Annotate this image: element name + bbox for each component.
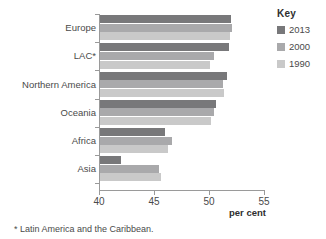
bar [100,24,232,32]
category-label: LAC* [2,51,96,61]
legend-label: 1990 [289,58,310,69]
x-axis-tick [154,191,155,195]
bar [100,100,216,108]
x-axis-tick-label: 45 [142,196,166,207]
legend-label: 2000 [289,41,310,52]
x-axis-tick [209,191,210,195]
category-label: Europe [2,23,96,33]
category-axis-labels: EuropeLAC*Northern AmericaOceaniaAfricaA… [0,0,96,239]
x-axis-tick [99,191,100,195]
bar [100,80,223,88]
legend-label: 2013 [289,24,310,35]
bar [100,52,214,60]
x-axis-title: per cent [190,207,266,218]
bar [100,15,231,23]
bar [100,32,230,40]
y-axis-tick [95,14,99,15]
bar [100,137,172,145]
legend-title: Key [277,8,326,19]
bar [100,128,165,136]
bar [100,117,211,125]
x-axis-tick [264,191,265,195]
legend: Key 201320001990 [277,8,326,75]
chart-figure: EuropeLAC*Northern AmericaOceaniaAfricaA… [0,0,326,239]
legend-swatch-icon [277,60,285,68]
bar [100,89,224,97]
bar [100,43,229,51]
bar [100,72,227,80]
y-axis-tick [95,155,99,156]
category-label: Asia [2,164,96,174]
y-axis-tick [95,183,99,184]
x-axis-tick-label: 55 [252,196,276,207]
x-axis-line [99,190,265,191]
category-label: Northern America [2,80,96,90]
x-axis-tick-label: 50 [197,196,221,207]
legend-entry: 2000 [277,41,326,52]
y-axis-tick [95,42,99,43]
legend-swatch-icon [277,26,285,34]
bar [100,145,168,153]
bar [100,61,210,69]
legend-entries: 201320001990 [277,24,326,69]
x-axis-tick-label: 40 [87,196,111,207]
bar [100,173,161,181]
legend-entry: 1990 [277,58,326,69]
bar [100,108,214,116]
y-axis-tick [95,127,99,128]
legend-swatch-icon [277,43,285,51]
category-label: Africa [2,136,96,146]
footnote: * Latin America and the Caribbean. [14,224,154,234]
legend-entry: 2013 [277,24,326,35]
category-label: Oceania [2,108,96,118]
y-axis-tick [95,99,99,100]
y-axis-tick [95,70,99,71]
bar [100,156,121,164]
bar [100,165,159,173]
